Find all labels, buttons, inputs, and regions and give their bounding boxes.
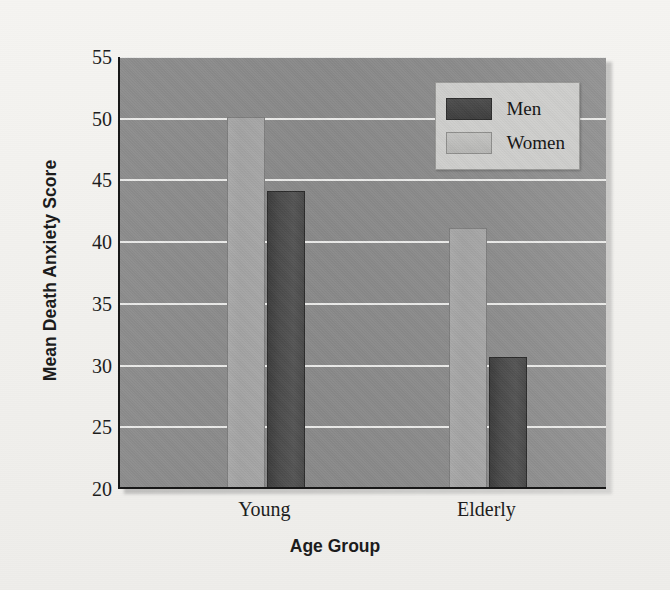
y-axis-title: Mean Death Anxiety Score	[38, 50, 64, 490]
legend-item-men: Men	[446, 92, 565, 126]
gridline	[120, 426, 606, 428]
y-axis-tick-label: 30	[66, 354, 112, 377]
bar-young-men	[267, 191, 305, 487]
gridline	[120, 57, 606, 58]
x-axis-title-text: Age Group	[290, 536, 380, 556]
gridline	[120, 303, 606, 305]
y-axis-tick-label: 50	[66, 107, 112, 130]
x-axis-title: Age Group	[0, 536, 670, 557]
bar-young-women	[227, 117, 265, 487]
legend-label-men: Men	[506, 98, 541, 120]
chart-page: Mean Death Anxiety Score 202530354045505…	[0, 0, 670, 590]
gridline	[120, 241, 606, 243]
legend-item-women: Women	[446, 126, 565, 160]
x-axis-tick-label-elderly: Elderly	[457, 498, 516, 521]
y-axis-tick-label: 25	[66, 416, 112, 439]
y-axis-tick-label: 55	[66, 46, 112, 69]
chart-legend: MenWomen	[435, 82, 580, 170]
legend-label-women: Women	[506, 132, 565, 154]
legend-swatch-men-icon	[446, 98, 492, 120]
x-axis-tick-label-young: Young	[238, 498, 290, 521]
y-axis-title-text: Mean Death Anxiety Score	[41, 159, 62, 381]
y-axis-tick-label: 20	[66, 478, 112, 501]
y-axis-tick-label: 35	[66, 292, 112, 315]
y-axis-tick-label: 40	[66, 231, 112, 254]
gridline	[120, 179, 606, 181]
y-axis-tick-label: 45	[66, 169, 112, 192]
bar-elderly-women	[449, 228, 487, 487]
bar-elderly-men	[489, 357, 527, 487]
gridline	[120, 365, 606, 367]
y-axis-tick-labels: 2025303540455055	[66, 42, 112, 498]
plot-area: MenWomen	[118, 57, 606, 489]
legend-swatch-women-icon	[446, 132, 492, 154]
